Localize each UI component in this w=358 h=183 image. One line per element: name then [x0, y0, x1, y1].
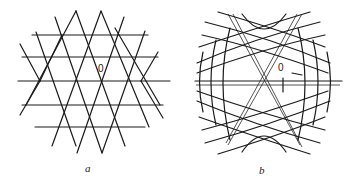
panel-b-origin-label: 0 [278, 62, 284, 73]
panel-b-lattice [195, 12, 342, 154]
panel-b-caption: b [259, 164, 265, 176]
panel-a-origin-label: 0 [98, 63, 104, 74]
panel-a-caption: a [85, 162, 91, 174]
figure-canvas [0, 0, 358, 183]
panel-a-lattice [18, 11, 170, 153]
